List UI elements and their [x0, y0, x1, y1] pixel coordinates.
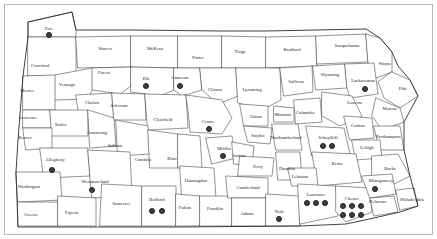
marker-dot-erie: [46, 32, 52, 38]
marker-dot-chester: [349, 203, 355, 209]
marker-dot-bedford: [149, 208, 155, 214]
marker-dot-chester: [358, 212, 364, 218]
marker-dot-lancaster: [304, 200, 310, 206]
pennsylvania-county-map: ErieCrawfordWarrenMcKeanPotterTiogaBradf…: [0, 0, 437, 239]
marker-dot-lancaster: [313, 200, 319, 206]
marker-dot-lackawanna: [362, 86, 368, 92]
marker-dot-schuylkill: [320, 143, 326, 149]
marker-dot-centre: [206, 126, 212, 132]
marker-dot-westmoreland: [89, 187, 95, 193]
marker-dot-allegheny: [49, 167, 55, 173]
county-boundaries-svg: [0, 0, 437, 239]
marker-dot-montgomery: [372, 186, 378, 192]
marker-dot-chester: [358, 203, 364, 209]
marker-dot-bedford: [159, 208, 165, 214]
marker-dot-york: [276, 216, 282, 222]
marker-dot-schuylkill: [329, 143, 335, 149]
marker-dot-cameron: [177, 83, 183, 89]
marker-dot-elk: [143, 83, 149, 89]
marker-dot-chester: [349, 212, 355, 218]
marker-dot-chester: [340, 212, 346, 218]
marker-dot-mifflin: [220, 153, 226, 159]
marker-dot-lancaster: [322, 200, 328, 206]
county-polygons: [16, 12, 418, 226]
marker-dot-chester: [340, 203, 346, 209]
